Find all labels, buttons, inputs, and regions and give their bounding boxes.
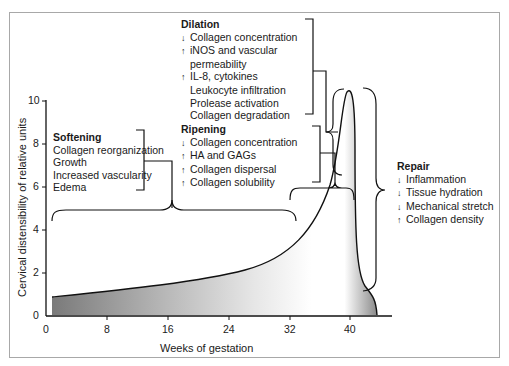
down-arrow-icon: ↓: [397, 187, 406, 200]
dilation-block: Dilation ↓Collagen concentration ↑iNOS a…: [181, 18, 297, 122]
dilation-item: Leukocyte infiltration: [181, 84, 297, 97]
y-tick-0: 0: [33, 309, 39, 321]
dilation-title: Dilation: [181, 18, 297, 31]
softening-item: Collagen reorganization: [53, 144, 164, 157]
down-arrow-icon: ↓: [397, 201, 406, 214]
softening-brace: [52, 200, 296, 221]
dilation-item: iNOS and vascular: [190, 44, 278, 56]
softening-item: Growth: [53, 156, 164, 169]
ripening-title: Ripening: [181, 123, 297, 136]
dilation-item: permeability: [181, 58, 297, 71]
ripening-item: Collagen dispersal: [190, 163, 276, 175]
repair-item: Mechanical stretch: [406, 200, 494, 212]
up-arrow-icon: ↑: [181, 150, 190, 163]
down-arrow-icon: ↓: [397, 174, 406, 187]
x-tick-16: 16: [162, 323, 174, 335]
ripening-block: Ripening ↓Collagen concentration ↑HA and…: [181, 123, 297, 190]
dilation-item: Collagen concentration: [190, 31, 297, 43]
x-tick-40: 40: [344, 323, 356, 335]
x-axis-label: Weeks of gestation: [160, 342, 253, 354]
y-tick-2: 2: [33, 266, 39, 278]
x-tick-8: 8: [104, 323, 110, 335]
y-tick-8: 8: [33, 137, 39, 149]
softening-item: Edema: [53, 181, 164, 194]
repair-title: Repair: [397, 160, 494, 173]
dilation-item: Prolease activation: [181, 97, 297, 110]
down-arrow-icon: ↓: [181, 32, 190, 45]
up-arrow-icon: ↑: [181, 71, 190, 84]
repair-item: Tissue hydration: [406, 186, 483, 198]
softening-item: Increased vascularity: [53, 169, 164, 182]
repair-item: Collagen density: [406, 213, 484, 225]
dilation-item: IL-8, cytokines: [190, 70, 258, 82]
repair-block: Repair ↓Inflammation ↓Tissue hydration ↓…: [397, 160, 494, 227]
softening-block: Softening Collagen reorganization Growth…: [53, 131, 164, 194]
y-tick-10: 10: [28, 94, 40, 106]
repair-brace: [363, 88, 385, 291]
ripening-item: Collagen concentration: [190, 136, 297, 148]
x-tick-24: 24: [223, 323, 235, 335]
up-arrow-icon: ↑: [181, 177, 190, 190]
y-tick-6: 6: [33, 180, 39, 192]
repair-item: Inflammation: [406, 173, 466, 185]
up-arrow-icon: ↑: [181, 164, 190, 177]
up-arrow-icon: ↑: [181, 45, 190, 58]
x-tick-32: 32: [284, 323, 296, 335]
softening-title: Softening: [53, 131, 164, 144]
dilation-item: Collagen degradation: [181, 109, 297, 122]
down-arrow-icon: ↓: [181, 137, 190, 150]
ripening-item: HA and GAGs: [190, 149, 256, 161]
y-tick-4: 4: [33, 223, 39, 235]
up-arrow-icon: ↑: [397, 214, 406, 227]
x-tick-0: 0: [43, 323, 49, 335]
y-axis-label: Cervical distensibility of relative unit…: [16, 118, 28, 297]
ripening-item: Collagen solubility: [190, 176, 275, 188]
